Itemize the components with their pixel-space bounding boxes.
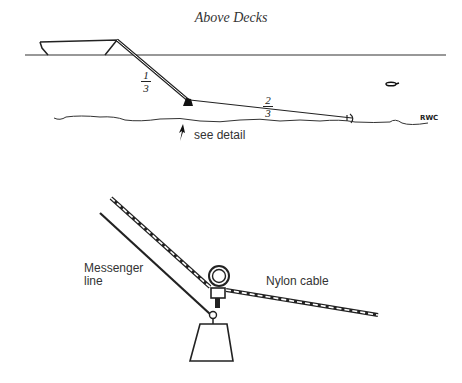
messenger-line-label: Messenger line [84, 262, 143, 288]
fraction-numerator: 2 [265, 94, 271, 106]
see-detail-label: see detail [194, 129, 245, 142]
weight-block-icon [190, 324, 233, 361]
arrow-up-icon [179, 124, 185, 141]
fraction-two-thirds: 2 3 [263, 95, 273, 118]
nylon-cable-label: Nylon cable [266, 275, 329, 288]
shackle-block [211, 288, 225, 298]
swivel-icon [215, 298, 220, 308]
boat-icon [40, 40, 117, 55]
signature-initials: RWC [420, 114, 438, 122]
sea-floor-line [54, 116, 428, 125]
diagram-canvas [0, 0, 462, 383]
messenger-label-line2: line [84, 275, 143, 288]
clip-ring-icon [210, 312, 217, 319]
fraction-one-third: 1 3 [141, 70, 151, 93]
fish-icon [386, 82, 396, 86]
fraction-denominator: 3 [265, 107, 271, 119]
fraction-denominator: 3 [143, 82, 149, 94]
fraction-numerator: 1 [143, 69, 149, 81]
anchor-weight-icon [183, 98, 193, 106]
